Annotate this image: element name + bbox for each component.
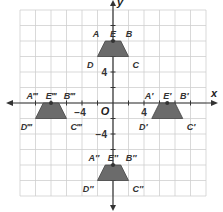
vertex-label-A: A — [92, 29, 100, 39]
x-axis-label: x — [210, 87, 218, 99]
x-axis-arrow-left-icon — [6, 100, 13, 106]
trapezoid-A''B''C''D'' — [98, 165, 129, 181]
point-E-marker — [165, 101, 169, 105]
vertex-label-A: A‴ — [25, 91, 38, 101]
vertex-label-D: D — [87, 60, 94, 70]
vertex-label-C: C‴ — [71, 122, 83, 132]
y-axis-arrow-up-icon — [110, 0, 116, 6]
y-axis-label: y — [116, 0, 124, 8]
vertex-label-A: A′ — [144, 91, 154, 101]
y-axis-arrow-down-icon — [110, 205, 116, 211]
vertex-label-E: E‴ — [46, 91, 58, 101]
trapezoid-A'B'C'D' — [152, 103, 183, 119]
trapezoid-A'''B'''C'''D''' — [36, 103, 67, 119]
vertex-label-D: D‴ — [21, 122, 33, 132]
point-E-marker — [111, 163, 115, 167]
point-E-marker — [49, 101, 53, 105]
labels: xyO4−44−4ABCDEA′B′C′D′E′A″B″C″D″E″A‴B‴C‴… — [21, 0, 218, 194]
vertex-label-D: D′ — [139, 122, 148, 132]
y-tick-label: −4 — [96, 129, 108, 140]
x-tick-label: 4 — [141, 107, 147, 118]
x-axis-arrow-right-icon — [211, 100, 218, 106]
vertex-label-B: B‴ — [64, 91, 76, 101]
y-tick-label: 4 — [101, 67, 107, 78]
vertex-label-A: A″ — [87, 153, 99, 163]
x-tick-label: −4 — [74, 107, 86, 118]
vertex-label-E: E′ — [163, 91, 172, 101]
point-E-marker — [111, 39, 115, 43]
vertex-label-B: B″ — [126, 153, 137, 163]
coordinate-plane: xyO4−44−4ABCDEA′B′C′D′E′A″B″C″D″E″A‴B‴C‴… — [0, 0, 223, 212]
vertex-label-C: C″ — [133, 184, 144, 194]
trapezoid-ABCD — [98, 41, 129, 57]
vertex-label-C: C — [133, 60, 140, 70]
vertex-label-E: E — [110, 29, 117, 39]
vertex-label-D: D″ — [83, 184, 94, 194]
vertex-label-B: B′ — [180, 91, 189, 101]
origin-label: O — [101, 105, 110, 117]
vertex-label-E: E″ — [108, 153, 119, 163]
vertex-label-C: C′ — [187, 122, 196, 132]
vertex-label-B: B — [126, 29, 133, 39]
